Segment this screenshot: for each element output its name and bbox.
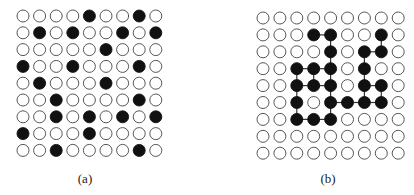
filled-dot (308, 80, 320, 92)
empty-dot (358, 29, 370, 41)
empty-dot (308, 12, 320, 24)
empty-dot (274, 97, 286, 109)
caption-a: (a) (78, 171, 92, 187)
empty-dot (274, 63, 286, 75)
filled-dot (358, 80, 370, 92)
empty-dot (325, 130, 337, 142)
filled-dot (308, 113, 320, 125)
filled-dot (375, 29, 387, 41)
filled-dot (325, 80, 337, 92)
empty-dot (342, 29, 354, 41)
empty-dot (375, 130, 387, 142)
empty-dot (392, 63, 404, 75)
empty-dot (375, 113, 387, 125)
empty-dot (291, 29, 303, 41)
empty-dot (392, 147, 404, 159)
filled-dot (358, 97, 370, 109)
filled-dot (375, 46, 387, 58)
filled-dot (358, 46, 370, 58)
filled-dot (375, 80, 387, 92)
empty-dot (392, 130, 404, 142)
empty-dot (257, 113, 269, 125)
empty-dot (308, 97, 320, 109)
empty-dot (358, 147, 370, 159)
filled-dot (291, 63, 303, 75)
empty-dot (325, 147, 337, 159)
empty-dot (274, 147, 286, 159)
filled-dot (342, 97, 354, 109)
empty-dot (375, 63, 387, 75)
empty-dot (392, 97, 404, 109)
empty-dot (358, 113, 370, 125)
filled-dot (358, 63, 370, 75)
empty-dot (392, 46, 404, 58)
empty-dot (274, 113, 286, 125)
filled-dot (291, 97, 303, 109)
empty-dot (342, 147, 354, 159)
filled-dot (325, 97, 337, 109)
empty-dot (257, 63, 269, 75)
grid-b (0, 0, 414, 170)
empty-dot (274, 12, 286, 24)
empty-dot (375, 147, 387, 159)
empty-dot (392, 29, 404, 41)
empty-dot (342, 130, 354, 142)
caption-b: (b) (320, 171, 335, 187)
empty-dot (342, 46, 354, 58)
empty-dot (358, 130, 370, 142)
filled-dot (325, 29, 337, 41)
empty-dot (392, 113, 404, 125)
empty-dot (358, 12, 370, 24)
filled-dot (325, 63, 337, 75)
filled-dot (308, 63, 320, 75)
empty-dot (257, 12, 269, 24)
empty-dot (291, 147, 303, 159)
empty-dot (257, 29, 269, 41)
filled-dot (325, 113, 337, 125)
empty-dot (392, 80, 404, 92)
empty-dot (291, 46, 303, 58)
filled-dot (291, 80, 303, 92)
filled-dot (291, 113, 303, 125)
empty-dot (308, 130, 320, 142)
filled-dot (375, 97, 387, 109)
empty-dot (342, 113, 354, 125)
filled-dot (325, 46, 337, 58)
empty-dot (342, 80, 354, 92)
empty-dot (257, 46, 269, 58)
empty-dot (274, 29, 286, 41)
empty-dot (342, 63, 354, 75)
empty-dot (274, 46, 286, 58)
filled-dot (308, 29, 320, 41)
panel-b (0, 0, 414, 170)
empty-dot (392, 12, 404, 24)
empty-dot (291, 130, 303, 142)
empty-dot (274, 80, 286, 92)
empty-dot (257, 97, 269, 109)
empty-dot (257, 147, 269, 159)
empty-dot (308, 46, 320, 58)
empty-dot (375, 12, 387, 24)
empty-dot (291, 12, 303, 24)
empty-dot (325, 12, 337, 24)
empty-dot (274, 130, 286, 142)
empty-dot (257, 130, 269, 142)
empty-dot (342, 12, 354, 24)
empty-dot (308, 147, 320, 159)
empty-dot (257, 80, 269, 92)
